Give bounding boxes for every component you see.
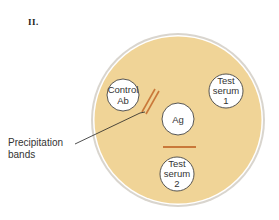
callout-line: bands xyxy=(8,149,63,161)
well-label: 2 xyxy=(174,178,179,189)
well-label: Ab xyxy=(117,95,129,106)
well-label: Ag xyxy=(172,114,184,125)
callout-line: Precipitation xyxy=(8,137,63,149)
well-test-serum-2: Test serum 2 xyxy=(160,157,194,191)
well-test-serum-1: Test serum 1 xyxy=(209,74,243,108)
precipitation-bands-label: Precipitation bands xyxy=(8,137,63,161)
well-ag: Ag xyxy=(162,103,194,135)
well-label: Control xyxy=(108,84,139,95)
well-label: 1 xyxy=(223,95,228,106)
immunodiffusion-plate-diagram: Control Ab Test serum 1 Ag Test serum 2 xyxy=(0,0,279,220)
well-control-ab: Control Ab xyxy=(107,79,139,111)
